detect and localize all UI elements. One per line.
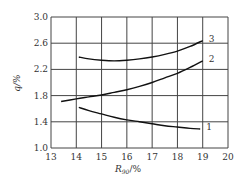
y-axis-label: q/% xyxy=(12,74,22,91)
x-tick-label: 13 xyxy=(45,152,57,162)
series-1-line xyxy=(79,107,200,129)
y-tick-label: 1.0 xyxy=(34,143,49,153)
y-tick-labels: 1.01.41.82.22.63.0 xyxy=(34,12,49,153)
x-tick-label: 20 xyxy=(222,152,234,162)
x-axis-label-sub: 90 xyxy=(122,168,130,175)
y-tick-label: 2.6 xyxy=(34,38,49,48)
series-2-label: 2 xyxy=(209,54,215,64)
curves xyxy=(61,41,203,129)
series-1-label: 1 xyxy=(206,122,212,132)
y-tick-label: 1.8 xyxy=(34,91,49,101)
x-tick-label: 15 xyxy=(96,152,108,162)
series-3-label: 3 xyxy=(209,34,215,44)
grid xyxy=(51,17,228,148)
x-tick-label: 17 xyxy=(146,152,158,162)
x-tick-labels: 1314151617181920 xyxy=(45,152,234,162)
x-tick-label: 14 xyxy=(71,152,83,162)
x-axis-label-suffix: /% xyxy=(129,164,141,174)
x-tick-label: 18 xyxy=(172,152,184,162)
x-tick-label: 16 xyxy=(121,152,133,162)
x-tick-label: 19 xyxy=(197,152,209,162)
curve-labels: 123 xyxy=(206,34,215,132)
chart: 1314151617181920 1.01.41.82.22.63.0 123 … xyxy=(0,0,251,189)
y-tick-label: 2.2 xyxy=(34,64,48,74)
y-tick-label: 1.4 xyxy=(34,117,49,127)
y-tick-label: 3.0 xyxy=(34,12,49,22)
x-axis-label: R90/% xyxy=(114,164,141,175)
